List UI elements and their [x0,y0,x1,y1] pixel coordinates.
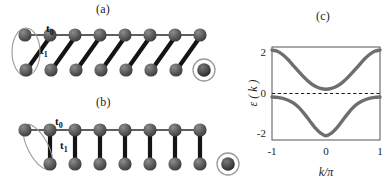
y-tick-label-2: 2 [261,46,267,58]
edge-state-marker-b [217,153,239,175]
hopping-label-t1-b: t1 [60,139,68,154]
panel-label-b: (b) [96,95,111,110]
y-axis-title: ε ( k ) [246,79,260,106]
x-tick-label-neg1: -1 [267,145,276,157]
hopping-label-t1-a: t1 [40,44,48,59]
x-tick-label-1: 1 [377,145,383,157]
bonds-t1-a [28,37,200,68]
hopping-label-t0-a: t0 [46,22,54,37]
atoms-bottom-b [43,157,206,170]
x-tick-label-0: 0 [323,145,329,157]
lattice-diagram-a [0,18,245,90]
y-tick-label-0: 0 [261,87,267,99]
band-structure-chart: 2 0 -2 -1 0 1 k/π ε ( k ) [245,0,387,190]
edge-state-marker-a [193,59,215,81]
hopping-label-t0-b: t0 [55,115,63,130]
y-tick-label-neg2: -2 [257,127,266,139]
lattice-diagram-b [0,112,245,184]
x-axis-title: k/π [319,165,335,179]
atoms-bottom-a [19,63,182,76]
figure-root: (a) [0,0,387,190]
panel-label-a: (a) [96,2,110,17]
